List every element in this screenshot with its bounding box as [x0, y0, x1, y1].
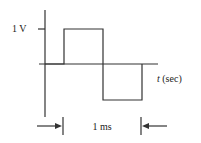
x-axis-label: t (sec): [157, 73, 182, 85]
y-label-1v: 1 V: [12, 23, 27, 34]
dimension-right-arrowhead-icon: [142, 123, 149, 129]
square-wave-diagram: 1 V t (sec) 1 ms: [0, 0, 201, 143]
dimension-left-arrowhead-icon: [55, 123, 62, 129]
dimension-label: 1 ms: [92, 121, 111, 132]
